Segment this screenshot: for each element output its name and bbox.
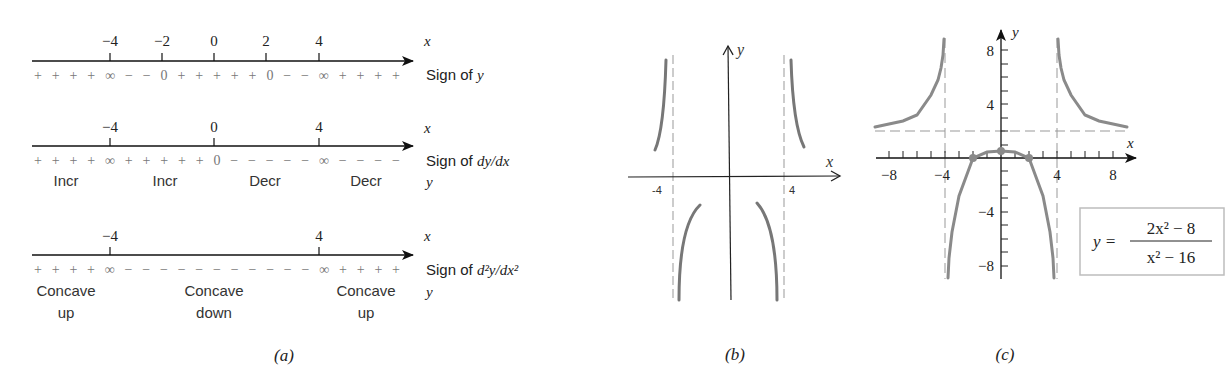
sign-row: + + + + ∞ + + + + + 0 − − − − − ∞ − − − … <box>34 153 400 168</box>
behavior-label: Decr <box>350 172 382 189</box>
curve-left-branch <box>875 39 944 127</box>
caption-a: (a) <box>274 346 294 365</box>
equation-lhs: y = <box>1091 232 1116 251</box>
tick-label: −4 <box>102 119 118 135</box>
tick-label: 4 <box>789 184 795 196</box>
x-label: x <box>423 228 431 244</box>
caption-c: (c) <box>996 345 1015 364</box>
x-axis-label: x <box>825 153 833 170</box>
tick-label: 0 <box>210 119 218 135</box>
tick-label: −4 <box>102 33 118 49</box>
x-tick-label: −8 <box>881 167 897 183</box>
curve-branch <box>679 205 700 300</box>
y-axis <box>728 46 731 300</box>
sign-label: Sign of d²y/dx² <box>426 261 519 278</box>
figure-canvas: −4 −2 0 2 4 x + + + + ∞ − − 0 + + + + + … <box>0 0 1228 382</box>
x-label: x <box>423 33 431 49</box>
tick-label: 2 <box>262 33 270 49</box>
x-tick-label: 4 <box>1053 167 1061 183</box>
x-intercept-point <box>969 154 977 162</box>
y-tick-label: 8 <box>987 43 995 59</box>
behavior-label: up <box>58 304 75 321</box>
curve-branch <box>655 60 666 150</box>
sign-line-d2ydx2: −4 4 x + + + + ∞ − − − − − − − − − − − ∞… <box>32 228 519 321</box>
tick-label: 4 <box>315 33 323 49</box>
sign-line-y: −4 −2 0 2 4 x + + + + ∞ − − 0 + + + + + … <box>32 33 484 83</box>
y-tick-label: 4 <box>987 97 995 113</box>
x-tick-label: −4 <box>934 167 950 183</box>
behavior-label: Concave <box>36 282 95 299</box>
behavior-row-label: y <box>424 174 433 190</box>
y-axis-label: y <box>1010 24 1019 40</box>
behavior-label: up <box>358 304 375 321</box>
curve-right-branch <box>1058 39 1127 127</box>
behavior-label: Incr <box>53 172 78 189</box>
x-label: x <box>423 120 431 136</box>
behavior-label: down <box>196 304 232 321</box>
tick-label: 0 <box>210 33 218 49</box>
tick-label: −2 <box>154 33 170 49</box>
x-tick-label: 8 <box>1109 167 1117 183</box>
y-intercept-point <box>997 147 1005 155</box>
sign-row: + + + + ∞ − − 0 + + + + + 0 − − ∞ + + + … <box>34 68 400 83</box>
tick-label: 4 <box>315 228 323 244</box>
tick-label: 4 <box>315 119 323 135</box>
panel-b-sketch: x y -4 4 (b) <box>628 41 840 364</box>
x-axis <box>628 176 840 177</box>
tick-label: −4 <box>102 228 118 244</box>
x-intercept-point <box>1025 154 1033 162</box>
equation-numerator: 2x² − 8 <box>1147 219 1196 238</box>
y-tick-label: −4 <box>978 204 994 220</box>
panel-c-graph: x y −8 −4 4 8 8 4 −4 −8 y = 2x² − <box>875 24 1224 364</box>
sign-label: Sign of dy/dx <box>426 152 510 169</box>
y-axis-label: y <box>735 41 745 59</box>
sign-line-dydx: −4 0 4 x + + + + ∞ + + + + + 0 − − − − −… <box>32 119 510 190</box>
behavior-label: Decr <box>249 172 281 189</box>
caption-b: (b) <box>725 345 745 364</box>
equation-denominator: x² − 16 <box>1147 248 1196 267</box>
tick-label: -4 <box>652 184 662 196</box>
behavior-label: Concave <box>336 282 395 299</box>
sign-row: + + + + ∞ − − − − − − − − − − − ∞ + + + … <box>34 262 400 277</box>
panel-a-sign-charts: −4 −2 0 2 4 x + + + + ∞ − − 0 + + + + + … <box>32 33 519 365</box>
y-tick-label: −8 <box>978 258 994 274</box>
curve-branch <box>757 203 777 300</box>
x-axis-label: x <box>1126 135 1134 151</box>
sign-label: Sign of y <box>426 66 484 83</box>
curve-branch <box>791 60 804 147</box>
behavior-row-label: y <box>424 284 433 300</box>
behavior-label: Concave <box>184 282 243 299</box>
behavior-label: Incr <box>152 172 177 189</box>
